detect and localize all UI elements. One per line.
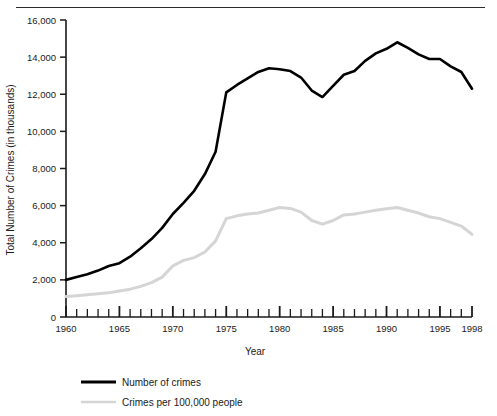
legend-label: Number of crimes <box>122 377 201 388</box>
y-tick-label: 16,000 <box>27 15 56 26</box>
x-axis-tick-labels: 196019651970197519801985199019951998 <box>55 323 482 334</box>
series-line <box>66 207 472 296</box>
x-axis-title: Year <box>245 346 266 357</box>
chart-legend: Number of crimesCrimes per 100,000 peopl… <box>81 377 243 408</box>
y-tick-label: 10,000 <box>27 126 56 137</box>
y-tick-label: 8,000 <box>32 163 56 174</box>
line-chart-plot: 02,0004,0006,0008,00010,00012,00014,0001… <box>0 0 497 416</box>
y-tick-label: 4,000 <box>32 237 56 248</box>
x-tick-label: 1995 <box>429 323 450 334</box>
x-tick-label: 1985 <box>323 323 344 334</box>
x-tick-label: 1998 <box>461 323 482 334</box>
y-tick-label: 2,000 <box>32 274 56 285</box>
x-tick-label: 1965 <box>109 323 130 334</box>
x-tick-label: 1980 <box>269 323 290 334</box>
x-tick-label: 1970 <box>162 323 183 334</box>
y-tick-label: 6,000 <box>32 200 56 211</box>
crime-statistics-figure: 02,0004,0006,0008,00010,00012,00014,0001… <box>0 0 497 416</box>
legend-label: Crimes per 100,000 people <box>122 397 243 408</box>
data-series-layer <box>66 42 472 296</box>
x-tick-label: 1990 <box>376 323 397 334</box>
x-tick-label: 1975 <box>216 323 237 334</box>
y-tick-label: 0 <box>51 312 56 323</box>
series-line <box>66 42 472 280</box>
y-tick-label: 12,000 <box>27 89 56 100</box>
y-tick-label: 14,000 <box>27 52 56 63</box>
x-axis-ticks <box>66 306 472 317</box>
x-tick-label: 1960 <box>55 323 76 334</box>
y-axis-tick-labels: 02,0004,0006,0008,00010,00012,00014,0001… <box>27 15 56 323</box>
y-axis-title: Total Number of Crimes (in thousands) <box>5 84 16 255</box>
y-axis-ticks <box>60 20 66 317</box>
